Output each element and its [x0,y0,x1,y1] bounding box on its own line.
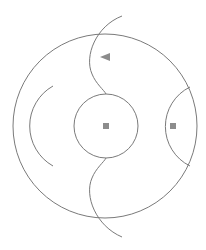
triangle-left-icon [100,53,110,61]
diagram-svg [0,0,206,250]
right-arc [165,87,190,166]
left-arc [30,86,53,166]
diagram-canvas [0,0,206,250]
bottom-s-curve [90,158,122,237]
center-square-marker [103,123,109,129]
right-square-marker [170,123,176,129]
